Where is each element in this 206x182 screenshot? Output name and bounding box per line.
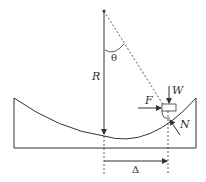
normal-label: N [179, 118, 190, 131]
displacement-label: Δ [132, 164, 139, 175]
diagram: θ R W F N Δ [0, 0, 206, 182]
block [162, 104, 176, 111]
weight-label: W [172, 84, 185, 97]
radius-label: R [91, 70, 100, 83]
angle-label: θ [111, 52, 117, 63]
block-contact-arc [162, 111, 170, 118]
diagram-canvas: θ R W F N Δ [0, 0, 206, 182]
normal-arrow [170, 120, 180, 135]
friction-label: F [144, 94, 153, 107]
angle-arc [105, 44, 124, 52]
